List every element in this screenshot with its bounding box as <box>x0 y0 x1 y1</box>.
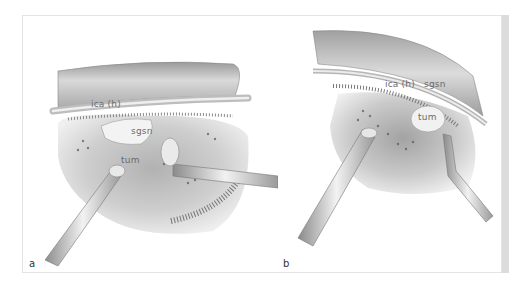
label-tumor-b: tum <box>418 112 437 122</box>
figure-frame: ica (h) sgsn tum a <box>22 15 502 273</box>
surgical-illustration-b <box>278 16 502 273</box>
side-strip <box>502 15 509 273</box>
panel-label-b: b <box>283 258 289 269</box>
label-ica-b: ica (h) <box>385 79 415 89</box>
label-ica-a: ica (h) <box>91 99 121 109</box>
panel-label-a: a <box>29 258 35 269</box>
panel-b: ica (h) sgsn tum b <box>278 16 502 272</box>
label-nerve-b: sgsn <box>424 79 446 89</box>
panel-a: ica (h) sgsn tum a <box>23 16 278 272</box>
label-tumor-a: tum <box>121 155 140 165</box>
surgical-illustration-a <box>23 16 278 273</box>
label-nerve-a: sgsn <box>131 126 153 136</box>
